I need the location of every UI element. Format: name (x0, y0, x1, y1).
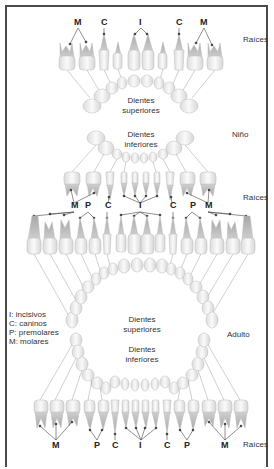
adult-lower-label-canine-right: C (164, 440, 171, 450)
child-lower-label-incisors: I (139, 200, 142, 210)
adult-lower-label-molar-right: M (221, 440, 229, 450)
adult-lower-label-incisors: I (139, 440, 142, 450)
adult-lower-label-premolar-left: P (94, 440, 100, 450)
child-lower-label-premolar-left: P (85, 200, 91, 210)
child-upper-label-incisors: I (139, 17, 142, 27)
child-upper-label-molar-left: M (74, 17, 82, 27)
child-upper-teeth-row (59, 34, 223, 70)
legend-item-premolars: P: premolares (9, 328, 59, 337)
child-upper-label-canine-left: C (101, 17, 108, 27)
child-lower-label-premolar-right: P (190, 200, 196, 210)
child-upper-label-canine-right: C (176, 17, 183, 27)
child-upper-label-molar-right: M (200, 17, 208, 27)
legend-item-incisors: I: incisivos (9, 310, 59, 319)
adult-upper-arch-label: Dientes superiores (117, 315, 167, 335)
arch-label-line2: superiores (117, 325, 167, 335)
adult-lower-label-canine-left: C (112, 440, 119, 450)
child-lower-roots-label: Raíces (243, 193, 268, 202)
child-upper-arch-label: Dientes superiores (120, 96, 162, 116)
child-lower-arch-label: Dientes inferiores (120, 130, 162, 150)
legend: I: incisivos C: caninos P: premolares M:… (9, 310, 59, 346)
child-lower-label-canine-right: C (170, 200, 177, 210)
adult-upper-teeth-row (27, 216, 255, 254)
adult-lower-arch-label: Dientes inferiores (117, 345, 167, 365)
child-upper-roots-label: Raíces (243, 35, 268, 44)
adult-lower-label-molar-left: M (52, 440, 60, 450)
child-lower-label-molar-right: M (205, 200, 213, 210)
arch-label-line2: superiores (120, 106, 162, 116)
child-lower-label-canine-left: C (105, 200, 112, 210)
child-upper-pointer-lines (69, 28, 213, 46)
child-upper-connector-lines (67, 69, 215, 98)
adult-section-label: Adulto (227, 330, 250, 339)
arch-label-line1: Dientes (120, 130, 162, 140)
arch-label-line1: Dientes (120, 96, 162, 106)
legend-item-canines: C: caninos (9, 319, 59, 328)
arch-label-line1: Dientes (117, 345, 167, 355)
adult-lower-label-premolar-right: P (184, 440, 190, 450)
child-section-label: Niño (232, 130, 248, 139)
dental-diagram-illustration (0, 0, 274, 469)
arch-label-line1: Dientes (117, 315, 167, 325)
legend-item-molars: M: molares (9, 337, 59, 346)
adult-lower-roots-label: Raíces (243, 440, 268, 449)
arch-label-line2: inferiores (117, 355, 167, 365)
adult-upper-pointer-lines (33, 212, 247, 219)
arch-label-line2: inferiores (120, 140, 162, 150)
child-lower-label-molar-left: M (71, 200, 79, 210)
